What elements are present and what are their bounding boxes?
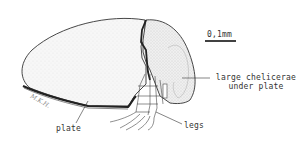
chelicerae-label-line2: under plate — [212, 82, 298, 91]
chelicerae-label: large chelicerae under plate — [212, 73, 298, 91]
plate-label: plate — [56, 124, 81, 133]
legs-leader — [156, 112, 182, 124]
legs-label: legs — [184, 121, 204, 130]
mite-illustration — [0, 0, 298, 142]
scale-bar-label: 0,1mm — [207, 30, 232, 39]
chelicerae-label-line1: large chelicerae — [212, 73, 298, 82]
